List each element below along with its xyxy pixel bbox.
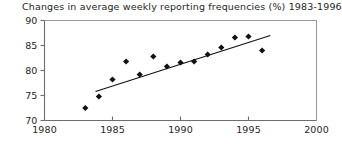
regression-trend-line — [96, 36, 271, 92]
x-tick-label: 1990 — [168, 124, 193, 135]
data-point — [232, 34, 238, 40]
data-point — [259, 47, 265, 53]
x-tick-label: 1995 — [236, 124, 261, 135]
trend-line-group — [96, 36, 271, 92]
data-point — [164, 63, 170, 69]
data-points-group — [82, 33, 265, 111]
y-tick-label: 85 — [25, 40, 37, 51]
y-tick-label: 80 — [25, 65, 37, 76]
data-point — [96, 93, 102, 99]
data-point — [82, 105, 88, 111]
data-point — [123, 58, 129, 64]
data-point — [150, 53, 156, 59]
data-point — [245, 33, 251, 39]
y-axis-ticks: 7075808590 — [25, 15, 44, 126]
x-axis-ticks: 19801985199019952000 — [32, 117, 329, 135]
x-tick-label: 1980 — [32, 124, 57, 135]
data-point — [109, 76, 115, 82]
data-point — [218, 44, 224, 50]
y-tick-label: 75 — [25, 90, 37, 101]
x-tick-label: 2000 — [304, 124, 329, 135]
x-tick-label: 1985 — [100, 124, 125, 135]
y-tick-label: 90 — [25, 15, 37, 26]
